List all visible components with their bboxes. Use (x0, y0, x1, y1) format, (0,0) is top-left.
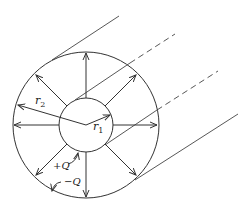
field-arrow-down-right (105, 144, 136, 175)
outer-cylinder-bottom-edge (135, 114, 238, 180)
inner-cylinder-top-edge-dashed (130, 34, 175, 63)
outer-charge-label: −Q (64, 176, 81, 187)
outer-charge-pointer (52, 182, 61, 191)
inner-cylinder-bottom-edge-dashed (157, 71, 218, 110)
outer-cylinder-lines (52, 16, 238, 180)
coaxial-cable-diagram: r2 r1 +Q −Q (0, 0, 250, 208)
inner-cylinder-top-edge-solid (75, 63, 130, 100)
field-arrow-up-right (105, 75, 136, 106)
outer-radius-label: r2 (35, 94, 45, 109)
diagram-svg: r2 r1 +Q −Q (0, 0, 250, 208)
inner-charge-label: +Q (53, 160, 70, 171)
